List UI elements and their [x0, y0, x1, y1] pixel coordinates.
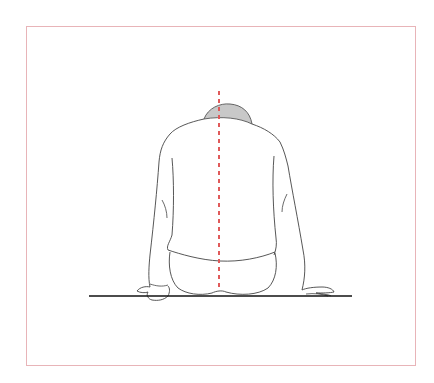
left-cuff: [150, 284, 168, 286]
torso-outline-right: [252, 124, 305, 290]
hips-left: [169, 252, 212, 294]
illustration: Illustration of a seated person viewed f…: [0, 0, 434, 383]
right-arm-crease: [282, 194, 287, 212]
left-arm-inner: [167, 158, 173, 250]
hips-right: [212, 253, 276, 294]
right-arm-inner: [273, 156, 276, 255]
left-arm-crease: [162, 200, 167, 218]
shirt-hem: [168, 250, 275, 261]
figure-drawing: [0, 0, 434, 383]
torso-outline: [149, 119, 204, 287]
right-hand: [302, 287, 334, 296]
left-hand: [137, 286, 170, 300]
head: [204, 104, 252, 124]
